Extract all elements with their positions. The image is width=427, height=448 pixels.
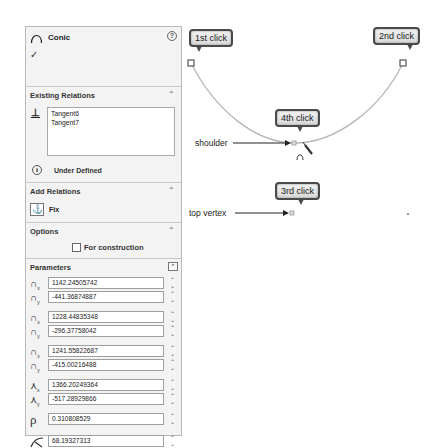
start-y-field[interactable]: -441.36874887 <box>48 291 164 303</box>
spinner[interactable]: ⌃⌄ <box>169 277 176 289</box>
spinner[interactable]: ⌃⌄ <box>169 413 176 425</box>
rho-field[interactable]: 0.310808529 <box>48 413 164 425</box>
spinner[interactable]: ⌃⌄ <box>169 393 176 405</box>
fix-relation-row[interactable]: ⚓ Fix <box>26 199 181 219</box>
callout-second-click: 2nd click <box>373 27 420 45</box>
end-point-x-icon: ∩x <box>30 312 44 324</box>
existing-relations-header[interactable]: Existing Relations <box>26 87 181 103</box>
spinner[interactable]: ⌃⌄ <box>169 435 176 447</box>
param-end-x: ∩x 1228.44835348 ⌃⌄ <box>26 311 181 325</box>
parameters-header[interactable]: Parameters <box>26 259 71 275</box>
rho-icon: ρ <box>30 414 44 426</box>
help-icon[interactable]: ? <box>167 31 177 41</box>
options-section: Options ⌃ For construction <box>26 223 181 259</box>
top-vertex-annotation: top vertex <box>189 208 226 218</box>
shoulder-y-icon: ⋏y <box>30 394 44 406</box>
add-relations-section: Add Relations ⌃ ⚓ Fix <box>26 183 181 223</box>
spinner[interactable]: ⌃⌄ <box>169 325 176 337</box>
callout-fourth-click: 4th click <box>275 109 320 127</box>
collapse-caret-icon[interactable]: ⌃ <box>168 90 175 99</box>
shoulder-y-field[interactable]: -517.28929866 <box>48 393 164 405</box>
shoulder-point <box>292 141 296 145</box>
end-x-field[interactable]: 1228.44835348 <box>48 311 164 323</box>
panel-title: Conic <box>30 31 70 44</box>
sketch-canvas[interactable]: 1st click 2nd click 4th click 3rd click … <box>185 0 427 448</box>
existing-relations-section: Existing Relations ⌃ ⊥ Tangent6 Tangent7… <box>26 87 181 183</box>
callout-first-click: 1st click <box>189 29 233 47</box>
add-relations-header[interactable]: Add Relations <box>26 183 181 199</box>
relation-item[interactable]: Tangent7 <box>51 118 171 127</box>
panel-header: Conic ? ✓ <box>26 27 181 87</box>
panel-title-text: Conic <box>48 33 70 42</box>
status-row: i Under Defined <box>26 159 102 181</box>
curvature-icon <box>30 436 44 448</box>
fix-anchor-icon[interactable]: ⚓ <box>30 203 44 216</box>
param-rho: ρ 0.310808529 ⌃⌄ <box>26 413 181 429</box>
start-point-x-icon: ∩x <box>30 278 44 290</box>
top-vertex-point <box>290 211 294 215</box>
param-end-y: ∩y -296.37758042 ⌃⌄ <box>26 325 181 339</box>
spinner[interactable]: ⌃⌄ <box>169 345 176 357</box>
definition-status: Under Defined <box>54 167 102 174</box>
shoulder-annotation: shoulder <box>195 138 228 148</box>
spinner[interactable]: ⌃⌄ <box>169 311 176 323</box>
start-x-field[interactable]: 1142.24505742 <box>48 277 164 289</box>
param-start-x: ∩x 1142.24505742 ⌃⌄ <box>26 277 181 291</box>
start-endpoint <box>188 60 194 66</box>
shoulder-x-field[interactable]: 1366.20249364 <box>48 379 164 391</box>
spinner[interactable]: ⌃⌄ <box>169 379 176 391</box>
ok-checkmark-button[interactable]: ✓ <box>30 49 38 60</box>
param-start-y: ∩y -441.36874887 ⌃⌄ <box>26 291 181 305</box>
param-curvature: 68.19327313 ⌃⌄ <box>26 435 181 448</box>
for-construction-checkbox[interactable] <box>72 243 81 252</box>
callout-third-click: 3rd click <box>275 182 320 200</box>
param-top-x: ∩x 1241.55822687 ⌃⌄ <box>26 345 181 359</box>
collapse-caret-icon[interactable]: ⌃ <box>168 186 175 195</box>
curvature-field[interactable]: 68.19327313 <box>48 435 164 447</box>
spinner[interactable]: ⌃⌄ <box>169 359 176 371</box>
fix-label[interactable]: Fix <box>49 206 59 213</box>
param-top-y: ∩y -415.00216488 ⌃⌄ <box>26 359 181 373</box>
options-header[interactable]: Options <box>26 223 181 239</box>
top-vertex-x-icon: ∩x <box>30 346 44 358</box>
relation-icon: ⊥ <box>31 107 40 118</box>
for-construction-label[interactable]: For construction <box>84 243 144 252</box>
existing-relations-list[interactable]: Tangent6 Tangent7 <box>47 107 175 156</box>
for-construction-row[interactable]: For construction <box>26 239 181 256</box>
end-point-y-icon: ∩y <box>30 326 44 338</box>
pencil-cursor-icon <box>297 142 312 160</box>
shoulder-x-icon: ⋏x <box>30 380 44 392</box>
top-x-field[interactable]: 1241.55822687 <box>48 345 164 357</box>
end-endpoint <box>400 60 406 66</box>
collapse-caret-icon[interactable]: ⌃ <box>168 226 175 235</box>
relation-item[interactable]: Tangent6 <box>51 109 171 118</box>
conic-property-manager: Conic ? ✓ Existing Relations ⌃ ⊥ Tangent… <box>25 26 182 436</box>
param-shoulder-y: ⋏y -517.28929866 ⌃⌄ <box>26 393 181 407</box>
end-y-field[interactable]: -296.37758042 <box>48 325 164 337</box>
conic-icon <box>30 31 43 44</box>
top-y-field[interactable]: -415.00216488 <box>48 359 164 371</box>
start-point-y-icon: ∩y <box>30 292 44 304</box>
collapse-caret-button[interactable]: ⌃ <box>168 262 178 271</box>
conic-curve <box>185 0 427 448</box>
top-vertex-y-icon: ∩y <box>30 360 44 372</box>
param-shoulder-x: ⋏x 1366.20249364 ⌃⌄ <box>26 379 181 393</box>
parameters-section: Parameters ⌃ ∩x 1142.24505742 ⌃⌄ ∩y -441… <box>26 259 181 448</box>
spinner[interactable]: ⌃⌄ <box>169 291 176 303</box>
info-icon: i <box>32 165 42 175</box>
